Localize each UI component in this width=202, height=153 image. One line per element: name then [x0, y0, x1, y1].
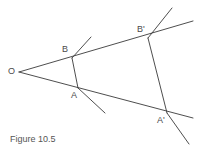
point-label-a: A	[71, 91, 77, 100]
vertex-label-o: O	[8, 67, 15, 76]
geometry-figure: O B A B' A' Figure 10.5	[0, 0, 202, 153]
point-label-b-prime: B'	[137, 25, 145, 34]
transversal-bprime-aprime-line	[148, 38, 167, 113]
transversal-b-a-line	[72, 58, 78, 88]
ray-o-upper-line	[19, 21, 193, 72]
ray-from-b-upper-line	[72, 37, 91, 58]
ray-from-bprime-upper-line	[148, 8, 172, 38]
point-label-a-prime: A'	[157, 116, 165, 125]
geometry-canvas	[0, 0, 202, 153]
figure-caption: Figure 10.5	[10, 135, 56, 144]
point-label-b: B	[62, 45, 68, 54]
ray-from-aprime-lower-line	[167, 113, 189, 144]
ray-from-a-lower-line	[78, 88, 105, 113]
